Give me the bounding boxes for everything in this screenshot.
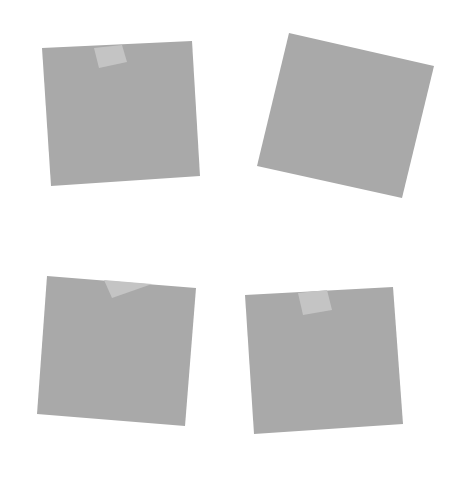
card-top-left: [42, 41, 200, 186]
card-top-right: [257, 33, 434, 198]
card-bottom-left: [37, 276, 196, 426]
paper-card: [257, 33, 434, 198]
photo-canvas: [0, 0, 459, 482]
card-bottom-right: [245, 287, 403, 434]
paper-card: [37, 276, 196, 426]
